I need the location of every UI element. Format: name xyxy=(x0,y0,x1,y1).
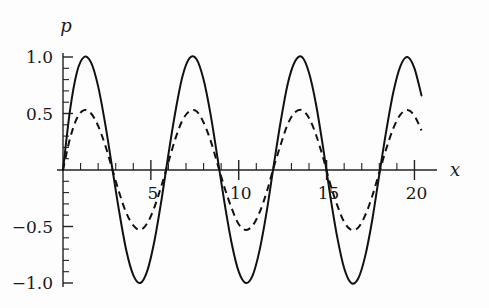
y-axis-label: p xyxy=(60,15,72,36)
x-tick-label: 5 xyxy=(147,183,158,203)
x-tick-label: 10 xyxy=(230,183,252,203)
x-axis-label: x xyxy=(450,159,460,180)
y-tick-label: 1.0 xyxy=(26,47,53,67)
y-tick-label: −1.0 xyxy=(12,273,53,293)
chart-figure: 1.00.5−0.5−1.05101520 p x xyxy=(0,0,489,308)
y-tick-label: 0.5 xyxy=(26,104,53,124)
y-tick-label: −0.5 xyxy=(12,217,53,237)
plot-canvas: 1.00.5−0.5−1.05101520 p x xyxy=(0,0,489,308)
x-tick-label: 20 xyxy=(406,183,428,203)
